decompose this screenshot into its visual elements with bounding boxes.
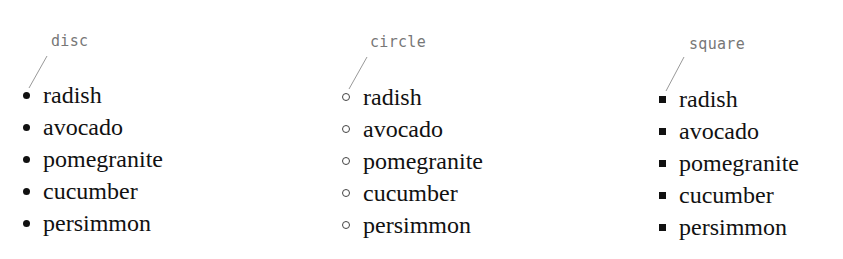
- square-bullet-icon: [659, 224, 666, 231]
- square-bullet-icon: [659, 96, 666, 103]
- circle-bullet-icon: [342, 189, 350, 197]
- list-item: radish: [657, 83, 799, 115]
- list-group-circle: circle radish avocado pomegranite cucumb…: [320, 0, 580, 230]
- list-item: cucumber: [657, 179, 799, 211]
- circle-bullet-icon: [342, 93, 350, 101]
- list-item: avocado: [340, 113, 483, 145]
- list-item: pomegranite: [21, 143, 163, 175]
- list-group-disc: disc radish avocado pomegranite cucumber…: [0, 0, 260, 230]
- disc-bullet-icon: [23, 220, 30, 227]
- disc-bullet-icon: [23, 124, 30, 131]
- bullet-list-square: radish avocado pomegranite cucumber pers…: [657, 83, 799, 243]
- list-item: pomegranite: [657, 147, 799, 179]
- disc-bullet-icon: [23, 92, 30, 99]
- list-item: cucumber: [340, 177, 483, 209]
- list-item: avocado: [657, 115, 799, 147]
- disc-bullet-icon: [23, 156, 30, 163]
- circle-bullet-icon: [342, 157, 350, 165]
- bullet-list-disc: radish avocado pomegranite cucumber pers…: [21, 79, 163, 239]
- list-item: radish: [21, 79, 163, 111]
- list-item: avocado: [21, 111, 163, 143]
- bullet-list-circle: radish avocado pomegranite cucumber pers…: [340, 81, 483, 241]
- list-style-label: circle: [370, 33, 426, 51]
- list-item: persimmon: [657, 211, 799, 243]
- list-group-square: square radish avocado pomegranite cucumb…: [637, 0, 843, 230]
- list-item: radish: [340, 81, 483, 113]
- list-item: persimmon: [21, 207, 163, 239]
- list-style-label: square: [689, 35, 745, 53]
- list-item: cucumber: [21, 175, 163, 207]
- list-style-label: disc: [51, 32, 88, 50]
- circle-bullet-icon: [342, 221, 350, 229]
- disc-bullet-icon: [23, 188, 30, 195]
- list-item: pomegranite: [340, 145, 483, 177]
- square-bullet-icon: [659, 192, 666, 199]
- circle-bullet-icon: [342, 125, 350, 133]
- square-bullet-icon: [659, 128, 666, 135]
- list-item: persimmon: [340, 209, 483, 241]
- square-bullet-icon: [659, 160, 666, 167]
